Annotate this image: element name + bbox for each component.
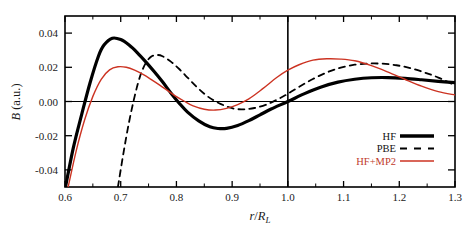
legend-label-pbe: PBE	[377, 143, 396, 154]
y-tick-label-0.02: 0.02	[39, 61, 58, 73]
x-tick-label-1.2: 1.2	[392, 191, 406, 203]
legend-label-hf: HF	[383, 131, 397, 142]
series-line-hf	[65, 38, 455, 190]
x-tick-label-1.1: 1.1	[337, 191, 351, 203]
x-tick-label-1.3: 1.3	[448, 191, 462, 203]
y-axis-title: B (a.u.)	[9, 83, 23, 120]
y-tick-label-0.00: 0.00	[39, 96, 59, 108]
x-tick-label-0.8: 0.8	[170, 191, 184, 203]
x-axis-title: r/RL	[249, 209, 270, 225]
y-tick-label--0.02: -0.02	[35, 130, 58, 142]
y-tick-label--0.04: -0.04	[35, 164, 58, 176]
legend-label-hf-mp2: HF+MP2	[356, 156, 396, 167]
x-tick-label-0.9: 0.9	[225, 191, 239, 203]
x-axis-title-sub: L	[264, 215, 270, 225]
chart-figure: 0.60.70.80.91.01.11.21.30.040.020.00-0.0…	[0, 0, 473, 231]
x-tick-label-0.6: 0.6	[58, 191, 72, 203]
series-line-pbe	[118, 55, 455, 187]
x-tick-label-0.7: 0.7	[114, 191, 128, 203]
plot-canvas: 0.60.70.80.91.01.11.21.30.040.020.00-0.0…	[0, 0, 473, 231]
chart-legend: HFPBEHF+MP2	[356, 131, 434, 167]
y-tick-label-0.04: 0.04	[39, 27, 59, 39]
x-tick-label-1.0: 1.0	[281, 191, 295, 203]
curves-layer	[65, 38, 455, 190]
